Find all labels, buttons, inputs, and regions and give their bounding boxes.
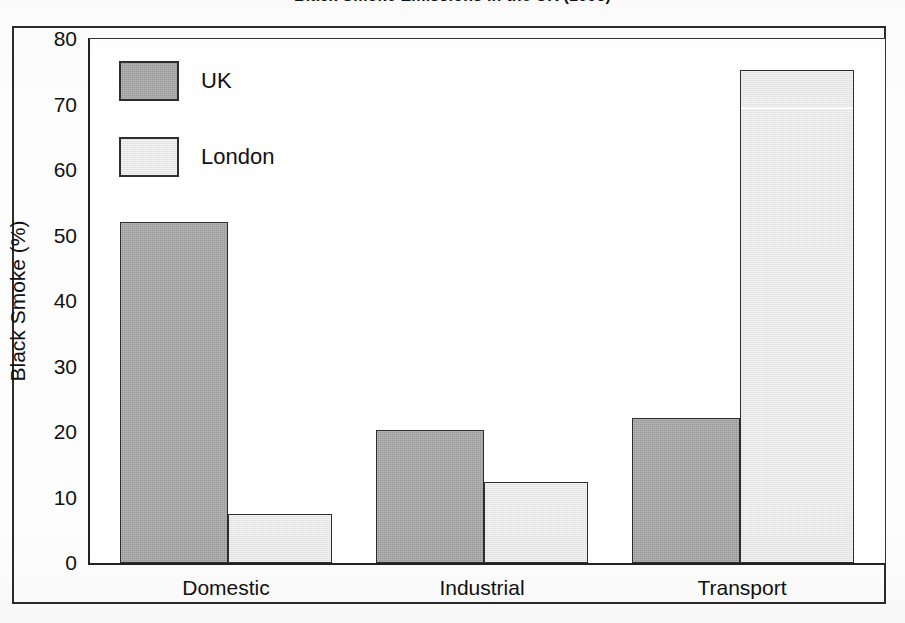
bar-london-domestic: [228, 514, 332, 563]
y-axis-tick-60: 60: [0, 158, 90, 182]
y-axis-tick-0: 0: [0, 551, 90, 575]
scan-artifact-line: [741, 107, 853, 109]
legend-swatch-uk: [119, 61, 179, 101]
legend-label-uk: UK: [201, 68, 232, 94]
bar-london-transport: [740, 70, 854, 563]
chart-title-clipped: Black Smoke Emissions in the UK (1995): [0, 0, 905, 12]
y-axis-tick-20: 20: [0, 420, 90, 444]
plot-area: Black Smoke (%) 0 10 20 30 40 50 60 70 8…: [88, 38, 886, 565]
y-axis-tick-80: 80: [0, 27, 90, 51]
y-tick-text: 40: [54, 289, 77, 312]
y-tick-text: 0: [65, 551, 77, 574]
bar-uk-transport: [632, 418, 740, 563]
legend-item-uk: UK: [119, 61, 274, 101]
bar-london-industrial: [484, 482, 588, 563]
chart-page: Black Smoke Emissions in the UK (1995) B…: [0, 0, 905, 623]
y-axis-tick-70: 70: [0, 93, 90, 117]
legend: UK London: [119, 61, 274, 213]
x-axis-label-transport: Transport: [697, 576, 786, 600]
y-axis-tick-30: 30: [0, 355, 90, 379]
legend-label-london: London: [201, 144, 274, 170]
x-axis-label-industrial: Industrial: [439, 576, 524, 600]
chart-title: Black Smoke Emissions in the UK (1995): [0, 0, 905, 5]
y-axis-tick-40: 40: [0, 289, 90, 313]
y-tick-text: 10: [54, 486, 77, 509]
y-axis-tick-10: 10: [0, 486, 90, 510]
bar-uk-industrial: [376, 430, 484, 563]
x-axis-label-domestic: Domestic: [182, 576, 270, 600]
bar-uk-domestic: [120, 222, 228, 563]
y-tick-text: 30: [54, 355, 77, 378]
legend-item-london: London: [119, 137, 274, 177]
legend-swatch-london: [119, 137, 179, 177]
y-axis-tick-50: 50: [0, 224, 90, 248]
y-tick-text: 80: [54, 27, 77, 50]
y-tick-text: 60: [54, 158, 77, 181]
y-tick-text: 50: [54, 224, 77, 247]
y-tick-text: 70: [54, 93, 77, 116]
y-tick-text: 20: [54, 420, 77, 443]
